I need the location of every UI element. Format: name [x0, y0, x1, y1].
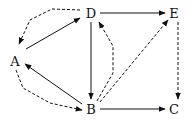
node-a: A — [10, 55, 19, 68]
graph-canvas — [0, 0, 194, 120]
edge-d-to-a — [19, 9, 80, 44]
node-c: C — [169, 103, 179, 116]
node-e: E — [169, 7, 179, 20]
node-d: D — [86, 7, 96, 20]
edge-a-to-b — [16, 70, 82, 110]
edge-b-to-e — [100, 20, 168, 102]
edge-a-to-d — [26, 18, 80, 49]
edge-b-to-a — [25, 64, 82, 104]
node-b: B — [86, 103, 96, 116]
